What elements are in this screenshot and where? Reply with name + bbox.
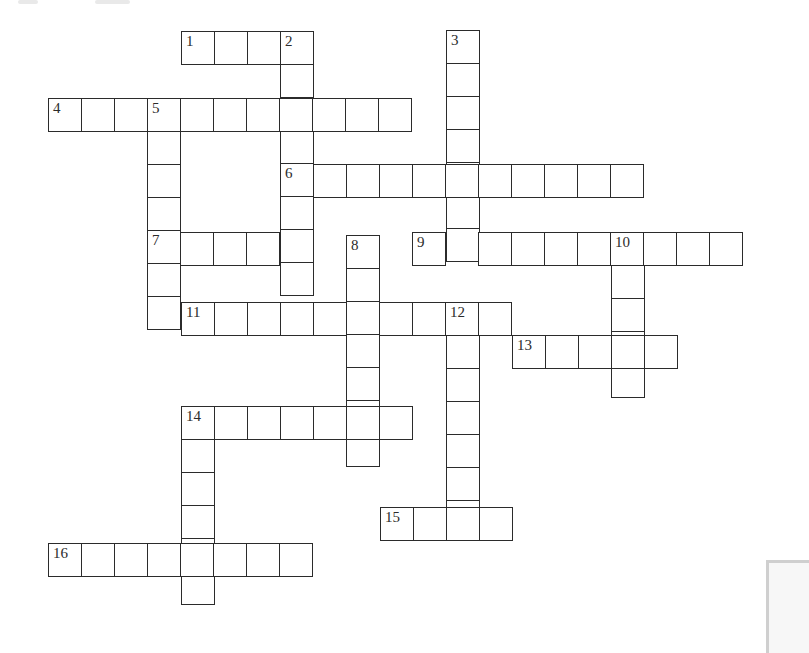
crossword-cell[interactable] bbox=[446, 335, 480, 369]
crossword-cell[interactable] bbox=[511, 164, 545, 198]
crossword-cell[interactable] bbox=[147, 543, 181, 577]
crossword-cell[interactable] bbox=[114, 98, 148, 132]
crossword-cell[interactable] bbox=[346, 334, 380, 368]
crossword-cell[interactable]: 3 bbox=[446, 30, 480, 64]
crossword-cell[interactable] bbox=[511, 232, 545, 266]
crossword-cell[interactable] bbox=[378, 98, 412, 132]
crossword-cell[interactable]: 6 bbox=[280, 163, 314, 197]
crossword-cell[interactable] bbox=[147, 296, 181, 330]
crossword-cell[interactable] bbox=[346, 164, 380, 198]
crossword-cell[interactable]: 10 bbox=[610, 232, 644, 266]
crossword-cell[interactable] bbox=[147, 197, 181, 231]
crossword-cell[interactable] bbox=[81, 98, 115, 132]
crossword-cell[interactable] bbox=[280, 229, 314, 263]
crossword-cell[interactable]: 5 bbox=[147, 98, 181, 132]
crossword-cell[interactable] bbox=[280, 64, 314, 98]
crossword-cell[interactable] bbox=[181, 472, 215, 506]
crossword-cell[interactable] bbox=[313, 164, 347, 198]
crossword-cell[interactable] bbox=[280, 196, 314, 230]
crossword-cell[interactable] bbox=[247, 302, 281, 336]
crossword-cell[interactable] bbox=[446, 96, 480, 130]
crossword-cell[interactable] bbox=[577, 164, 611, 198]
crossword-cell[interactable] bbox=[279, 543, 313, 577]
crossword-cell[interactable] bbox=[81, 543, 115, 577]
crossword-cell[interactable] bbox=[279, 98, 313, 132]
crossword-cell[interactable] bbox=[147, 263, 181, 297]
crossword-cell[interactable] bbox=[578, 335, 612, 369]
crossword-cell[interactable] bbox=[346, 268, 380, 302]
crossword-cell[interactable] bbox=[545, 335, 579, 369]
crossword-cell[interactable] bbox=[180, 98, 214, 132]
crossword-cell[interactable] bbox=[643, 232, 677, 266]
crossword-cell[interactable] bbox=[345, 98, 379, 132]
crossword-cell[interactable]: 2 bbox=[280, 31, 314, 65]
crossword-cell[interactable] bbox=[413, 507, 447, 541]
crossword-cell[interactable]: 12 bbox=[445, 302, 479, 336]
crossword-cell[interactable]: 13 bbox=[512, 335, 546, 369]
crossword-cell[interactable] bbox=[312, 98, 346, 132]
crossword-cell[interactable] bbox=[379, 164, 413, 198]
crossword-cell[interactable] bbox=[412, 164, 446, 198]
crossword-cell[interactable] bbox=[214, 31, 248, 65]
crossword-cell[interactable] bbox=[246, 232, 280, 266]
crossword-cell[interactable] bbox=[446, 507, 480, 541]
crossword-cell[interactable] bbox=[544, 164, 578, 198]
crossword-cell[interactable]: 11 bbox=[181, 302, 215, 336]
crossword-cell[interactable] bbox=[478, 302, 512, 336]
crossword-cell[interactable] bbox=[611, 265, 645, 299]
crossword-cell[interactable] bbox=[147, 131, 181, 165]
crossword-cell[interactable] bbox=[280, 406, 314, 440]
crossword-cell[interactable] bbox=[611, 335, 645, 369]
crossword-cell[interactable] bbox=[379, 406, 413, 440]
crossword-cell[interactable] bbox=[611, 364, 645, 398]
crossword-cell[interactable] bbox=[181, 505, 215, 539]
crossword-cell[interactable] bbox=[644, 335, 678, 369]
crossword-cell[interactable]: 7 bbox=[147, 230, 181, 264]
crossword-cell[interactable] bbox=[213, 232, 247, 266]
crossword-cell[interactable] bbox=[181, 439, 215, 473]
crossword-cell[interactable] bbox=[214, 406, 248, 440]
crossword-cell[interactable]: 14 bbox=[181, 406, 215, 440]
crossword-cell[interactable] bbox=[180, 543, 214, 577]
crossword-cell[interactable] bbox=[346, 301, 380, 335]
crossword-cell[interactable] bbox=[445, 164, 479, 198]
crossword-cell[interactable] bbox=[676, 232, 710, 266]
crossword-cell[interactable]: 4 bbox=[48, 98, 82, 132]
crossword-cell[interactable] bbox=[114, 543, 148, 577]
crossword-cell[interactable] bbox=[246, 543, 280, 577]
crossword-cell[interactable] bbox=[709, 232, 743, 266]
crossword-cell[interactable] bbox=[446, 228, 480, 262]
crossword-cell[interactable] bbox=[544, 232, 578, 266]
crossword-cell[interactable] bbox=[446, 401, 480, 435]
crossword-cell[interactable] bbox=[346, 406, 380, 440]
crossword-cell[interactable] bbox=[478, 164, 512, 198]
crossword-cell[interactable] bbox=[313, 302, 347, 336]
crossword-cell[interactable] bbox=[280, 302, 314, 336]
crossword-cell[interactable] bbox=[247, 31, 281, 65]
crossword-cell[interactable]: 16 bbox=[48, 543, 82, 577]
crossword-cell[interactable] bbox=[446, 467, 480, 501]
crossword-cell[interactable]: 8 bbox=[346, 235, 380, 269]
crossword-cell[interactable]: 9 bbox=[412, 232, 446, 266]
crossword-cell[interactable] bbox=[213, 543, 247, 577]
crossword-cell[interactable] bbox=[247, 406, 281, 440]
crossword-cell[interactable] bbox=[446, 368, 480, 402]
crossword-cell[interactable] bbox=[479, 507, 513, 541]
crossword-cell[interactable] bbox=[180, 232, 214, 266]
crossword-cell[interactable] bbox=[577, 232, 611, 266]
crossword-cell[interactable] bbox=[313, 406, 347, 440]
crossword-cell[interactable] bbox=[214, 302, 248, 336]
crossword-cell[interactable] bbox=[446, 195, 480, 229]
crossword-cell[interactable] bbox=[412, 302, 446, 336]
crossword-cell[interactable] bbox=[379, 302, 413, 336]
crossword-cell[interactable] bbox=[611, 298, 645, 332]
crossword-cell[interactable] bbox=[147, 164, 181, 198]
crossword-cell[interactable] bbox=[280, 262, 314, 296]
crossword-cell[interactable]: 1 bbox=[181, 31, 215, 65]
crossword-cell[interactable]: 15 bbox=[380, 507, 414, 541]
crossword-cell[interactable] bbox=[446, 434, 480, 468]
crossword-cell[interactable] bbox=[280, 130, 314, 164]
crossword-cell[interactable] bbox=[346, 367, 380, 401]
crossword-cell[interactable] bbox=[610, 164, 644, 198]
crossword-cell[interactable] bbox=[213, 98, 247, 132]
